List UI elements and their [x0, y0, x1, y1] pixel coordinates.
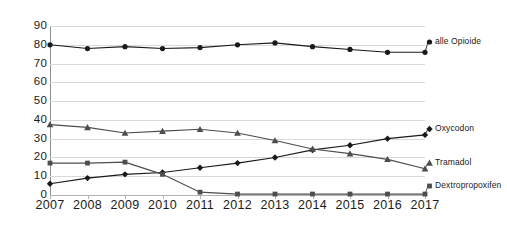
legend-marker [427, 39, 432, 44]
data-point [310, 192, 315, 197]
series-layer [0, 0, 507, 225]
data-point [385, 50, 390, 55]
legend-label-dextropropoxifen: Dextropropoxifen [435, 181, 501, 190]
legend-label-tramadol: Tramadol [435, 158, 471, 167]
series-dextropropoxifen [48, 160, 432, 197]
data-point [272, 40, 277, 45]
legend-marker [426, 160, 433, 166]
data-point [384, 135, 390, 141]
series-line [50, 135, 425, 184]
data-point [123, 160, 128, 165]
data-point [47, 181, 53, 187]
legend-marker [427, 184, 432, 189]
data-point [197, 165, 203, 171]
data-point [234, 160, 240, 166]
series-line [50, 162, 425, 194]
data-point [85, 161, 90, 166]
legend-label-oxycodon: Oxycodon [435, 124, 474, 133]
legend-label-alle-opioide: alle Opioide [435, 37, 481, 46]
data-point [423, 192, 428, 197]
data-point [47, 42, 52, 47]
data-point [348, 192, 353, 197]
data-point [422, 132, 428, 138]
data-point [422, 50, 427, 55]
data-point [197, 45, 202, 50]
data-point [273, 192, 278, 197]
data-point [85, 46, 90, 51]
data-point [48, 161, 53, 166]
data-point [235, 192, 240, 197]
data-point [198, 190, 203, 195]
data-point [122, 171, 128, 177]
data-point [160, 172, 165, 177]
data-point [84, 175, 90, 181]
series-alle-opioide [47, 39, 432, 54]
data-point [347, 142, 353, 148]
data-point [160, 46, 165, 51]
data-point [347, 47, 352, 52]
data-point [122, 44, 127, 49]
data-point [310, 44, 315, 49]
data-point [272, 154, 278, 160]
data-point [385, 192, 390, 197]
data-point [235, 42, 240, 47]
line-chart: 0102030405060708090 20072008200920102011… [0, 0, 507, 225]
